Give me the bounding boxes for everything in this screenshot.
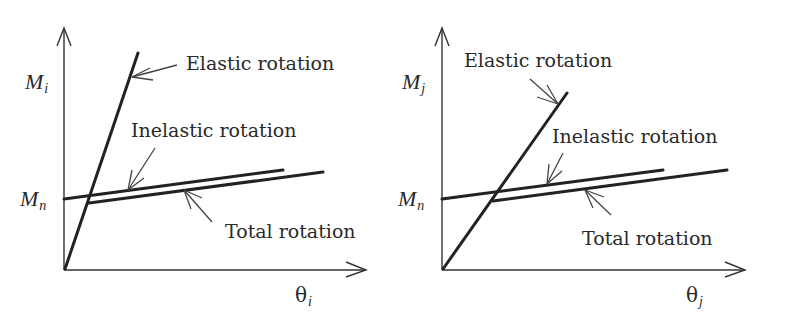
right-mn-label: Mn: [397, 186, 424, 213]
left-inelastic-label: Inelastic rotation: [131, 119, 296, 141]
right-x-axis-label: θj: [686, 283, 703, 309]
left-mn-label: Mn: [19, 186, 46, 213]
left-panel: Elastic rotation Inelastic rotation Tota…: [19, 28, 366, 309]
left-elastic-label: Elastic rotation: [186, 52, 334, 74]
left-total-pointer-icon: [184, 190, 212, 222]
right-total-line: [493, 170, 727, 201]
left-y-axis-label: Mi: [24, 69, 48, 96]
left-x-axis-label: θi: [295, 283, 312, 309]
left-elastic-pointer-icon: [132, 65, 177, 80]
right-elastic-pointer-icon: [530, 79, 558, 104]
right-y-axis-label: Mj: [401, 69, 425, 96]
moment-rotation-diagram: Elastic rotation Inelastic rotation Tota…: [0, 0, 787, 330]
right-total-pointer-icon: [585, 190, 611, 215]
left-total-label: Total rotation: [225, 220, 356, 242]
right-inelastic-pointer-icon: [547, 153, 563, 184]
right-panel: Elastic rotation Inelastic rotation Tota…: [397, 28, 745, 309]
right-inelastic-label: Inelastic rotation: [552, 125, 717, 147]
right-total-label: Total rotation: [582, 227, 713, 249]
left-inelastic-pointer-icon: [128, 148, 155, 190]
left-elastic-line: [65, 53, 138, 269]
left-total-line: [89, 172, 323, 203]
right-elastic-label: Elastic rotation: [464, 49, 612, 71]
